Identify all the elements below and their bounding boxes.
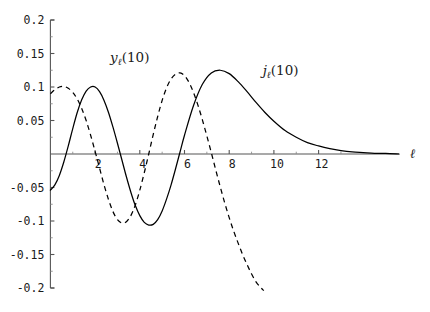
x-axis-label: ℓ	[410, 146, 416, 161]
y-tick-label: -0.2	[17, 281, 45, 295]
annotation-argument: (10)	[122, 49, 150, 65]
series-annotation-j-l-10-: jℓ(10)	[260, 62, 299, 80]
chart-figure: 0.20.150.10.05-0.05-0.1-0.15-0.224681012…	[0, 0, 430, 312]
bessel-function-plot: 0.20.150.10.05-0.05-0.1-0.15-0.224681012…	[0, 0, 430, 312]
y-tick-label: 0.1	[24, 80, 45, 94]
y-tick-label: 0.15	[17, 47, 45, 61]
y-tick-label: -0.05	[10, 181, 45, 195]
series-annotation-y-l-10-: yℓ(10)	[109, 49, 149, 67]
x-tick-label: 8	[229, 157, 236, 171]
y-tick-label: 0.2	[24, 13, 45, 27]
y-tick-label: -0.15	[10, 248, 45, 262]
x-tick-label: 12	[315, 157, 329, 171]
x-tick-label: 6	[184, 157, 191, 171]
plot-background	[0, 0, 430, 312]
annotation-argument: (10)	[271, 62, 299, 78]
y-tick-label: 0.05	[17, 114, 45, 128]
x-tick-label: 10	[270, 157, 284, 171]
annotation-base: y	[109, 49, 118, 65]
y-tick-label: -0.1	[17, 214, 45, 228]
